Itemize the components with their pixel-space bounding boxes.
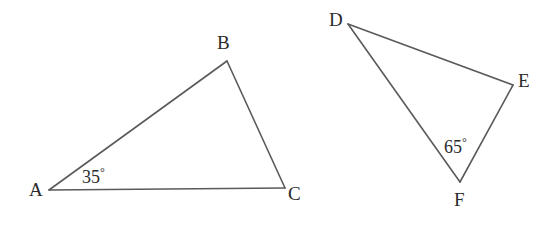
angle-label-a: 35°: [82, 166, 105, 186]
angle-label-a-value: 35: [82, 167, 100, 187]
edge-ef: [460, 85, 513, 182]
vertex-label-d: D: [329, 10, 343, 29]
edge-fd: [348, 24, 460, 182]
degree-symbol-icon: °: [462, 135, 467, 149]
triangle-def-edges: [348, 24, 513, 182]
vertex-label-e: E: [518, 71, 530, 90]
edge-bc: [227, 61, 285, 188]
vertex-label-c: C: [288, 184, 301, 203]
figure-canvas: [0, 0, 551, 232]
vertex-label-b: B: [217, 33, 230, 52]
angle-label-f-value: 65: [444, 137, 462, 157]
angle-label-f: 65°: [444, 136, 467, 156]
edge-ab: [49, 61, 227, 190]
degree-symbol-icon: °: [100, 165, 105, 179]
vertex-label-a: A: [29, 180, 43, 199]
edge-de: [348, 24, 513, 85]
vertex-label-f: F: [454, 190, 465, 209]
edge-ca: [49, 188, 285, 190]
geometry-figure: A B C 35° D E F 65°: [0, 0, 551, 232]
